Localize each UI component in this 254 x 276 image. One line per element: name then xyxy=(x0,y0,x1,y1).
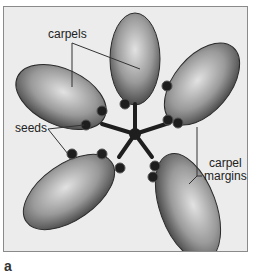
figure-frame: carpels seeds carpel margins xyxy=(3,6,248,252)
carpel-top xyxy=(110,13,160,105)
label-carpel-margins-line2: margins xyxy=(204,170,247,183)
panel-letter: a xyxy=(4,258,12,274)
label-seeds: seeds xyxy=(15,122,47,135)
label-carpels: carpels xyxy=(48,28,87,41)
